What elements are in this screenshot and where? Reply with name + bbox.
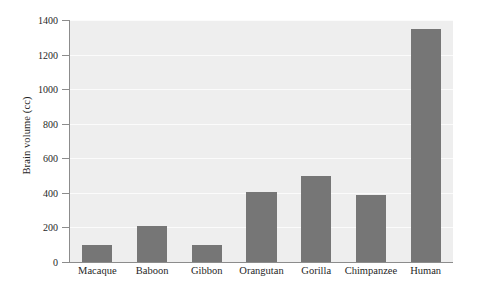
- y-tick-mark: [62, 262, 69, 263]
- y-tick-mark: [62, 20, 69, 21]
- y-tick-label: 600: [43, 153, 58, 164]
- bar: [192, 245, 222, 262]
- x-axis-spine: [69, 262, 453, 263]
- x-tick-label: Gibbon: [191, 265, 223, 276]
- x-tick-label: Gorilla: [301, 265, 331, 276]
- bars-layer: [70, 20, 453, 262]
- y-tick-label: 0: [53, 257, 58, 268]
- y-tick-label: 200: [43, 222, 58, 233]
- x-tick-label: Macaque: [78, 265, 116, 276]
- y-tick-label: 1400: [38, 15, 58, 26]
- y-tick-mark: [62, 89, 69, 90]
- bar-chart-figure: Brain volume (cc) 0200400600800100012001…: [0, 0, 477, 294]
- bar: [137, 226, 167, 262]
- x-tick-label: Orangutan: [239, 265, 283, 276]
- y-tick-mark: [62, 227, 69, 228]
- y-tick-mark: [62, 55, 69, 56]
- bar: [82, 245, 112, 262]
- y-tick-label: 400: [43, 187, 58, 198]
- bar: [411, 29, 441, 262]
- x-tick-label: Baboon: [136, 265, 169, 276]
- x-tick-label: Human: [410, 265, 441, 276]
- y-tick-mark: [62, 193, 69, 194]
- bar: [301, 176, 331, 262]
- y-axis-title-text: Brain volume (cc): [21, 96, 32, 174]
- y-tick-label: 800: [43, 118, 58, 129]
- y-tick-mark: [62, 158, 69, 159]
- bar: [356, 195, 386, 262]
- y-tick-label: 1200: [38, 49, 58, 60]
- y-axis-title: Brain volume (cc): [14, 0, 38, 270]
- y-tick-mark: [62, 124, 69, 125]
- x-tick-label: Chimpanzee: [345, 265, 397, 276]
- x-axis-category-labels: MacaqueBaboonGibbonOrangutanGorillaChimp…: [70, 265, 453, 285]
- y-tick-label: 1000: [38, 84, 58, 95]
- bar: [246, 192, 276, 262]
